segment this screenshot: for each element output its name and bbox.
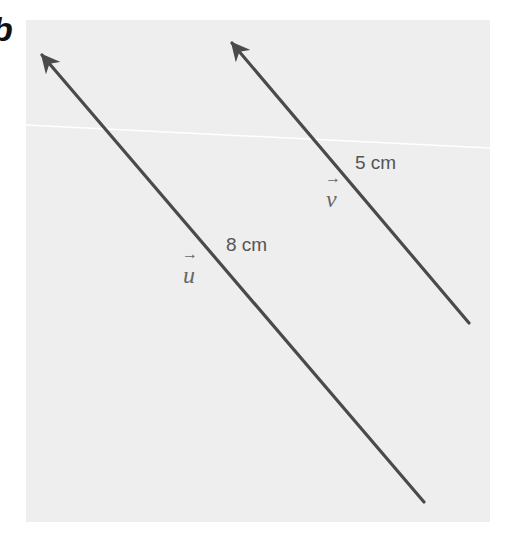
vector-v-length-label: 5 cm <box>355 152 396 174</box>
vector-v-symbol: → v <box>326 186 337 213</box>
vector-diagram <box>0 0 513 541</box>
scan-artifact-line <box>26 125 490 148</box>
vector-u-length-label: 8 cm <box>226 234 267 256</box>
vector-u-arrow <box>42 55 424 502</box>
vector-u-symbol: → u <box>183 262 195 289</box>
vector-arrow-icon: → <box>182 245 198 263</box>
vector-arrow-icon: → <box>325 169 341 187</box>
vector-v-arrow <box>232 43 469 323</box>
